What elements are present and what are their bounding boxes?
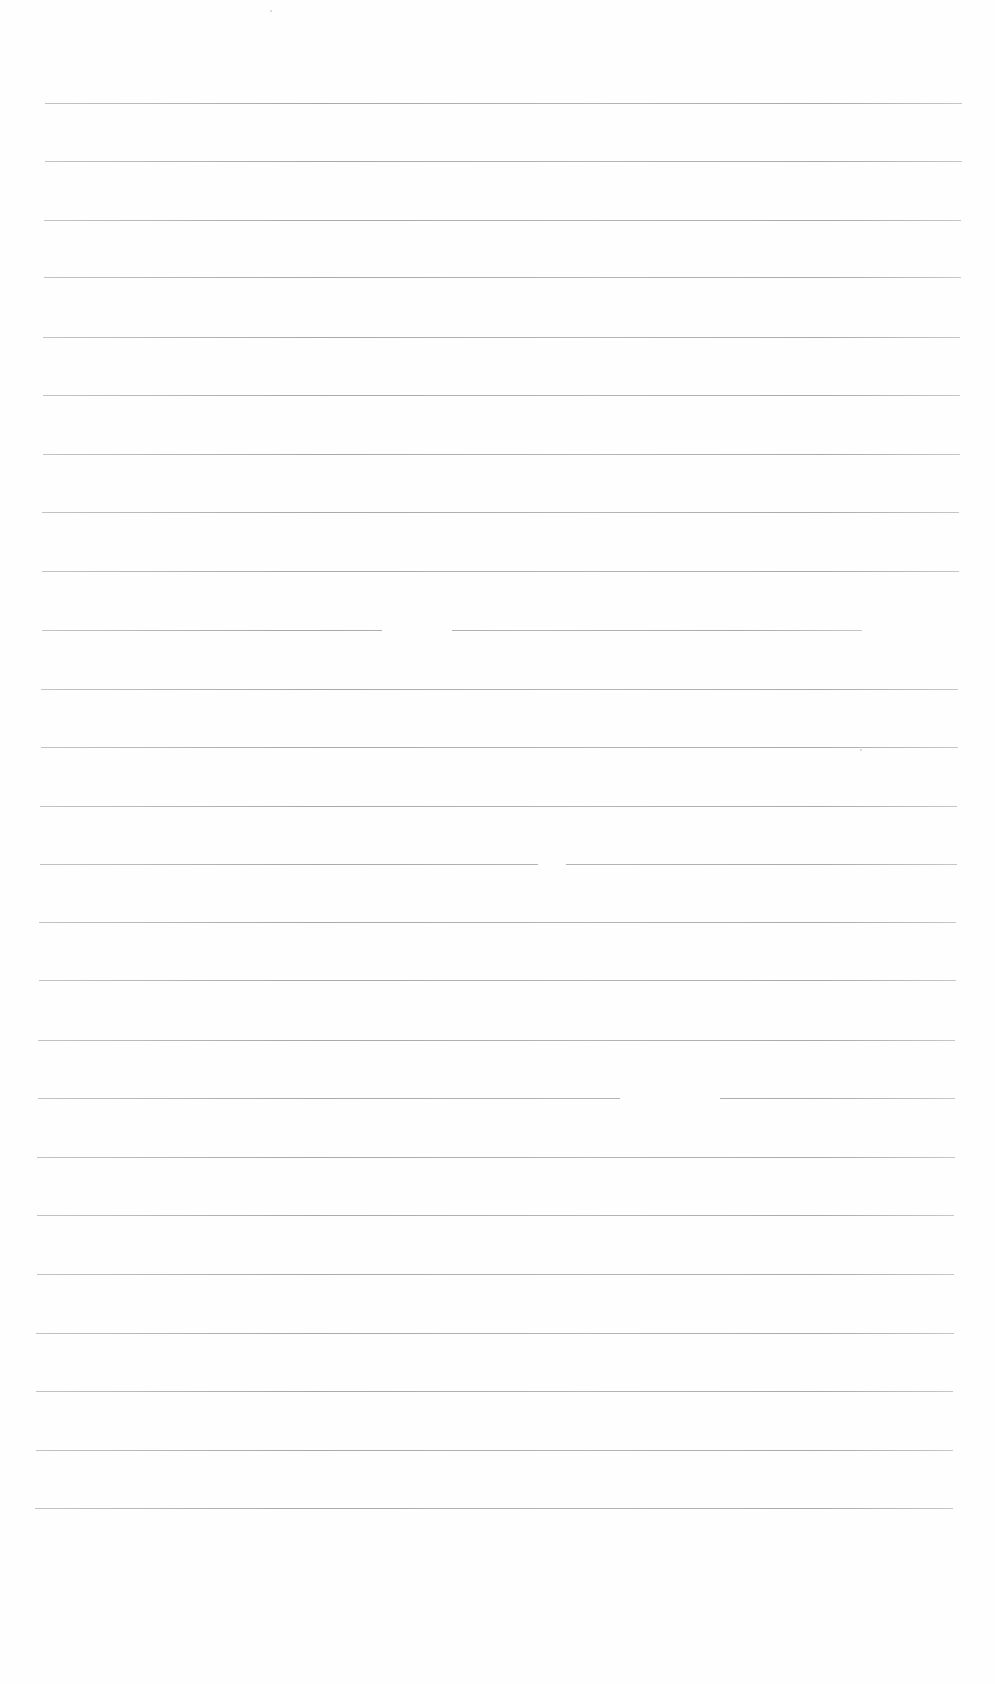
- ruled-line: [41, 747, 958, 748]
- ruled-line: [39, 980, 956, 981]
- ruled-line: [43, 395, 960, 396]
- ruled-line: [37, 1274, 954, 1275]
- ruled-line: [40, 864, 957, 865]
- ruled-line: [36, 1333, 954, 1334]
- ruled-line: [43, 454, 960, 455]
- ruled-line: [38, 1040, 955, 1041]
- line-gap: [620, 1098, 720, 1099]
- lined-paper-page: [0, 0, 995, 1684]
- ruled-line: [42, 512, 959, 513]
- ruled-line: [41, 689, 958, 690]
- ruled-line: [39, 922, 956, 923]
- line-gap: [382, 630, 452, 631]
- ruled-line: [43, 337, 960, 338]
- ruled-line: [40, 806, 957, 807]
- ruled-line: [42, 630, 862, 631]
- ruled-line: [45, 161, 962, 162]
- ruled-line: [42, 571, 959, 572]
- ruled-line: [35, 1508, 953, 1509]
- ruled-line: [38, 1098, 955, 1099]
- line-gap: [538, 864, 566, 865]
- ruled-line: [36, 1450, 953, 1451]
- ruled-line: [45, 103, 962, 104]
- ruled-line: [37, 1215, 954, 1216]
- ruled-line: [36, 1391, 953, 1392]
- ruled-line: [37, 1157, 955, 1158]
- ruled-line: [44, 220, 961, 221]
- speck-mark: [860, 749, 862, 751]
- ruled-line: [44, 277, 961, 278]
- speck-mark: [270, 10, 272, 12]
